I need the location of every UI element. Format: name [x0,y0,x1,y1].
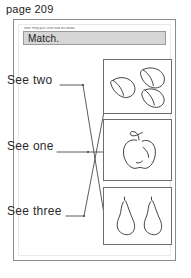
prompt-label-see-one: See one [7,139,54,153]
instruction-note: Note: Help your child read the words. [24,27,164,30]
prompt-label-see-two: See two [7,73,52,87]
apple-illustration [104,120,171,180]
bananas-illustration [104,60,171,113]
picture-box-apple[interactable] [103,119,172,181]
pears-illustration [104,188,171,244]
picture-box-bananas[interactable] [103,59,172,114]
worksheet-title: Match. [28,33,59,44]
picture-box-pears[interactable] [103,187,172,245]
title-banner: Match. [23,31,166,45]
page-number-label: page 209 [6,3,53,15]
prompt-label-see-three: See three [7,204,62,218]
